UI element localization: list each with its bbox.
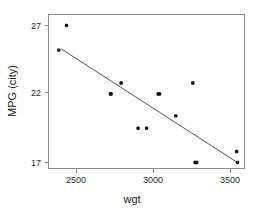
data-point <box>174 114 177 117</box>
data-point <box>65 24 68 27</box>
y-tick-label-27: 27 <box>31 21 41 31</box>
regression-line <box>61 49 237 163</box>
scatter-plot-figure: 27 22 17 2500 3000 3500 wgt MPG (city) <box>0 0 262 213</box>
data-point <box>236 161 239 164</box>
y-tick-label-22: 22 <box>31 88 41 98</box>
y-axis-ticks <box>45 26 49 163</box>
data-point <box>235 150 238 153</box>
x-tick-label-3500: 3500 <box>220 175 240 185</box>
x-tick-label-2500: 2500 <box>66 175 86 185</box>
data-point <box>109 92 112 95</box>
data-point <box>158 92 161 95</box>
x-axis-title: wgt <box>122 193 140 205</box>
data-point-group <box>57 24 239 164</box>
data-point <box>57 48 60 51</box>
data-point <box>119 81 122 84</box>
y-tick-label-17: 17 <box>31 158 41 168</box>
x-tick-label-3000: 3000 <box>143 175 163 185</box>
y-axis-title: MPG (city) <box>6 65 18 117</box>
data-point <box>136 127 139 130</box>
x-axis-ticks <box>77 169 231 173</box>
plot-canvas: 27 22 17 2500 3000 3500 wgt MPG (city) <box>0 0 262 213</box>
data-point <box>191 81 194 84</box>
data-point <box>195 161 198 164</box>
plot-frame <box>49 15 245 169</box>
data-point <box>145 127 148 130</box>
